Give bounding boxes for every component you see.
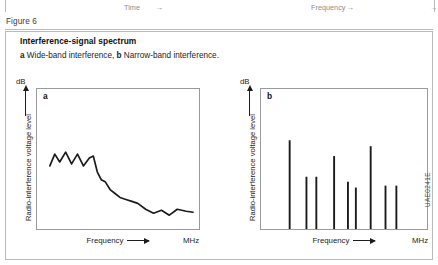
panel-a-x-axis-arrow-icon [127, 240, 149, 241]
previous-time-arrow-icon: → [155, 3, 163, 12]
panel-a-plot-area [36, 88, 200, 230]
wide-band-spectrum-curve [37, 89, 199, 229]
previous-time-label: Time [124, 3, 140, 12]
figure-title: Interference-signal spectrum [20, 36, 136, 46]
figure-caption: a Wide-band interference, b Narrow-band … [20, 51, 219, 60]
panel-a-x-unit: MHz [183, 236, 199, 245]
previous-figure-box: Time → Frequency → → [5, 0, 435, 12]
caption-a-marker: a [20, 51, 25, 60]
figure-id-code: UAE0241E [424, 172, 431, 207]
panel-b-x-unit: MHz [412, 236, 428, 245]
panel-a-x-title: Frequency [87, 236, 124, 245]
panel-a-y-axis-label: Radio-interference voltage level [24, 103, 33, 233]
figure-divider [5, 29, 433, 30]
figure-number: Figure 6 [6, 17, 37, 26]
caption-a-text: Wide-band interference, [27, 51, 114, 60]
previous-tail-arrow-icon: → [430, 3, 437, 12]
panel-b-letter: b [267, 91, 272, 101]
previous-frequency-label: Frequency [311, 3, 345, 12]
panel-b-plot-area [260, 88, 428, 230]
panel-b-x-axis-label: Frequency [260, 236, 428, 245]
panel-b-y-axis-label: Radio-interference voltage level [248, 103, 257, 233]
previous-frequency-arrow-icon: → [346, 3, 354, 12]
panel-b-x-axis-arrow-icon [353, 240, 375, 241]
panel-a-letter: a [43, 91, 48, 101]
previous-figure-strip: Time → Frequency → → [0, 0, 438, 12]
panel-a-x-axis-label: Frequency [36, 236, 200, 245]
narrow-band-spectral-lines [261, 89, 427, 229]
caption-b-marker: b [117, 51, 122, 60]
caption-b-text: Narrow-band interference. [124, 51, 219, 60]
panel-b-x-title: Frequency [313, 236, 350, 245]
